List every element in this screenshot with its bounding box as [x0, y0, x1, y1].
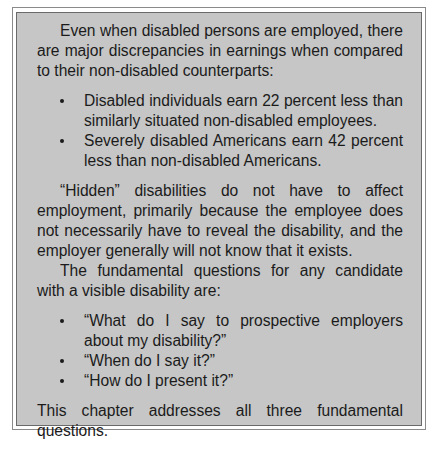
list-item: “What do I say to prospective employers …	[37, 311, 403, 351]
list-item-text: Severely disabled Americans earn 42 perc…	[84, 132, 403, 169]
closing-paragraph: This chapter addresses all three fundame…	[37, 401, 403, 441]
list-item: Disabled individuals earn 22 percent les…	[37, 91, 403, 131]
list-item: Severely disabled Americans earn 42 perc…	[37, 131, 403, 171]
intro-paragraph: Even when disabled persons are employed,…	[37, 21, 403, 81]
sidebar-content: Even when disabled persons are employed,…	[37, 21, 403, 441]
list-item-text: “When do I say it?”	[84, 352, 215, 369]
bullet-icon	[60, 139, 64, 143]
questions-intro-paragraph: The fundamental questions for any candid…	[37, 261, 403, 301]
list-item: “How do I present it?”	[37, 371, 403, 391]
list-item-text: Disabled individuals earn 22 percent les…	[84, 92, 403, 129]
earnings-list: Disabled individuals earn 22 percent les…	[37, 91, 403, 171]
bullet-icon	[60, 379, 64, 383]
list-item: “When do I say it?”	[37, 351, 403, 371]
list-item-text: “What do I say to prospective employers …	[84, 312, 403, 349]
bullet-icon	[60, 99, 64, 103]
bullet-icon	[60, 359, 64, 363]
hidden-disabilities-paragraph: “Hidden” disabilities do not have to aff…	[37, 181, 403, 261]
questions-list: “What do I say to prospective employers …	[37, 311, 403, 391]
list-item-text: “How do I present it?”	[84, 372, 233, 389]
bullet-icon	[60, 319, 64, 323]
